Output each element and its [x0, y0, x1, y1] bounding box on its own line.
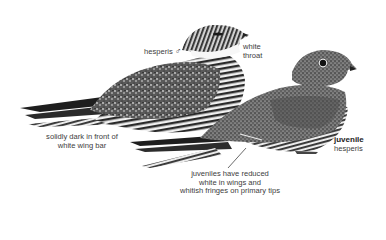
- adult-male-bird: [20, 25, 249, 133]
- white-throat-label: white throat: [243, 43, 262, 60]
- wing-note-line-2: white wing bar: [36, 142, 128, 151]
- wing-bar-note: solidly dark in front of white wing bar: [36, 133, 128, 150]
- juvenile-label: juvenile hesperis: [334, 136, 364, 153]
- juvenile-subspecies: hesperis: [334, 145, 364, 154]
- male-label: hesperis ♂: [144, 47, 182, 57]
- juv-note-line-3: whitish fringes on primary tips: [164, 187, 296, 196]
- throat-line-2: throat: [243, 52, 262, 61]
- juvenile-wing-note: juveniles have reduced white in wings an…: [164, 170, 296, 196]
- male-symbol-icon: ♂: [175, 46, 182, 56]
- annotation-leader-line: [228, 148, 246, 168]
- male-subspecies-label: hesperis: [144, 47, 173, 56]
